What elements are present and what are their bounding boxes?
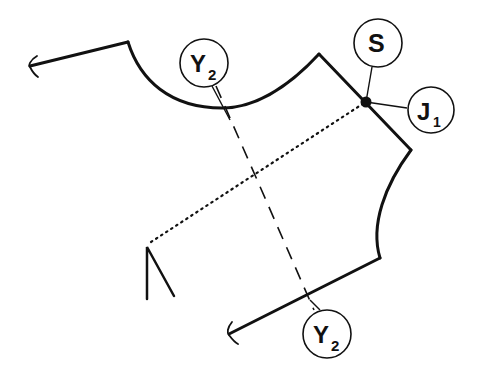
- leader-j1: [366, 102, 407, 108]
- label-y2-bottom: Y 2: [303, 310, 351, 358]
- svg-text:1: 1: [433, 114, 441, 130]
- svg-text:S: S: [368, 29, 385, 57]
- pattern-outline: [30, 42, 411, 334]
- leader-y2-bottom: [310, 300, 320, 310]
- junction-dot: [361, 97, 372, 108]
- arrow-markers: [29, 56, 238, 344]
- dart-mark: [147, 247, 174, 299]
- svg-text:2: 2: [331, 337, 339, 354]
- leader-y2-top: [212, 86, 230, 120]
- label-j1: J 1: [408, 87, 454, 133]
- svg-text:J: J: [417, 98, 430, 125]
- upper-left-edge: [30, 42, 128, 66]
- armhole-curve: [377, 150, 411, 258]
- bottom-edge: [229, 258, 380, 334]
- label-y2-top: Y 2: [180, 39, 228, 87]
- leader-lines: [212, 67, 407, 310]
- dashed-centerline: [216, 86, 314, 310]
- pattern-diagram: Y 2 S J 1 Y 2: [0, 0, 481, 378]
- svg-text:Y: Y: [190, 50, 206, 77]
- dotted-guideline: [151, 103, 364, 242]
- svg-text:2: 2: [208, 66, 216, 83]
- svg-text:Y: Y: [313, 321, 329, 348]
- label-s: S: [354, 19, 402, 67]
